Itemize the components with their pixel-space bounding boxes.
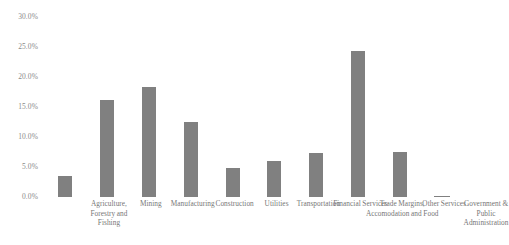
bar-slot xyxy=(44,17,86,197)
y-axis-tick: 15.0% xyxy=(18,103,38,111)
bar-chart: 30.0% 25.0% 20.0% 15.0% 10.0% 5.0% 0.0% xyxy=(0,0,509,245)
y-axis-tick: 10.0% xyxy=(18,133,38,141)
y-axis-tick: 0.0% xyxy=(22,193,38,201)
bar-slot xyxy=(337,17,379,197)
bar-agriculture-forestry-and-fishing xyxy=(58,176,72,197)
bar-financial-services xyxy=(309,153,323,197)
bar-construction xyxy=(184,122,198,197)
y-axis-tick: 20.0% xyxy=(18,73,38,81)
y-axis-tick: 30.0% xyxy=(18,13,38,21)
x-axis-label-government-and-public-administration: Government & Public Administration xyxy=(458,199,509,228)
bar-trade-margins-accomodation-and-food xyxy=(351,51,365,197)
bar-other-services xyxy=(393,152,407,197)
bar-slot xyxy=(421,17,463,197)
bar-utilities xyxy=(226,168,240,197)
x-axis-labels: Agriculture, Forestry and Fishing Mining… xyxy=(44,199,505,245)
bar-slot xyxy=(254,17,296,197)
bar-transportation xyxy=(267,161,281,197)
bar-manufacturing xyxy=(142,87,156,197)
plot-area xyxy=(44,17,505,197)
bar-slot xyxy=(170,17,212,197)
y-axis-tick: 5.0% xyxy=(22,163,38,171)
y-axis-tick: 25.0% xyxy=(18,43,38,51)
bar-slot xyxy=(86,17,128,197)
y-axis: 30.0% 25.0% 20.0% 15.0% 10.0% 5.0% 0.0% xyxy=(0,0,44,205)
bar-mining xyxy=(100,100,114,197)
bar-government-and-public-administration xyxy=(434,196,450,198)
bar-slot xyxy=(379,17,421,197)
bar-slot xyxy=(295,17,337,197)
bar-slot xyxy=(128,17,170,197)
bar-slot xyxy=(212,17,254,197)
